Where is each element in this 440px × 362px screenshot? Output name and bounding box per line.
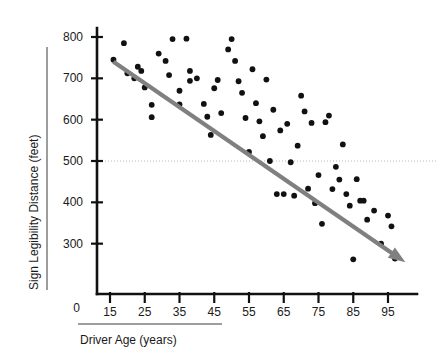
data-point bbox=[239, 90, 245, 96]
data-point bbox=[354, 176, 360, 182]
trend-arrow bbox=[113, 62, 405, 262]
y-tick-label-800: 800 bbox=[63, 30, 83, 44]
data-point bbox=[149, 114, 155, 120]
data-point bbox=[371, 208, 377, 214]
x-tick-group: 152535455565758595 bbox=[103, 292, 395, 319]
data-point bbox=[201, 101, 207, 107]
data-point bbox=[309, 120, 315, 126]
x-tick-label-25: 25 bbox=[138, 305, 152, 319]
data-point bbox=[274, 191, 280, 197]
data-point bbox=[302, 109, 308, 115]
y-tick-label-400: 400 bbox=[63, 195, 83, 209]
y-axis-title: Sign Legibility Distance (feet) bbox=[27, 135, 41, 290]
data-point bbox=[149, 102, 155, 108]
data-point bbox=[319, 221, 325, 227]
data-point bbox=[187, 78, 193, 84]
data-point bbox=[232, 58, 238, 64]
data-point bbox=[260, 133, 266, 139]
data-point bbox=[389, 223, 395, 229]
y-tick-label-500: 500 bbox=[63, 154, 83, 168]
data-point bbox=[138, 68, 144, 74]
y-tick-label-600: 600 bbox=[63, 113, 83, 127]
data-point bbox=[163, 58, 169, 64]
data-point bbox=[236, 78, 242, 84]
data-point bbox=[187, 68, 193, 74]
y-origin-label: 0 bbox=[73, 301, 80, 315]
data-point bbox=[267, 158, 273, 164]
x-tick-label-55: 55 bbox=[242, 305, 256, 319]
data-point bbox=[361, 198, 367, 204]
data-point bbox=[194, 75, 200, 81]
data-point bbox=[156, 51, 162, 57]
data-point bbox=[263, 77, 269, 83]
data-point bbox=[250, 66, 256, 72]
data-point bbox=[385, 213, 391, 219]
data-point bbox=[177, 88, 183, 94]
data-point bbox=[215, 77, 221, 83]
data-point bbox=[229, 36, 235, 42]
data-point bbox=[204, 114, 210, 120]
data-point bbox=[316, 172, 322, 178]
x-tick-label-75: 75 bbox=[312, 305, 326, 319]
data-point bbox=[218, 110, 224, 116]
trend-line bbox=[113, 62, 394, 255]
data-point bbox=[291, 193, 297, 199]
data-point bbox=[166, 72, 172, 78]
data-point bbox=[270, 107, 276, 113]
x-tick-label-85: 85 bbox=[347, 305, 361, 319]
y-tick-label-300: 300 bbox=[63, 237, 83, 251]
data-point bbox=[336, 177, 342, 183]
data-point bbox=[350, 256, 356, 262]
data-point bbox=[284, 121, 290, 127]
data-point bbox=[298, 93, 304, 99]
data-point bbox=[347, 203, 353, 209]
data-point bbox=[305, 186, 311, 192]
data-point bbox=[257, 118, 263, 124]
data-point bbox=[343, 191, 349, 197]
y-tick-label-700: 700 bbox=[63, 71, 83, 85]
data-point bbox=[277, 128, 283, 134]
data-point bbox=[211, 85, 217, 91]
x-tick-label-45: 45 bbox=[208, 305, 222, 319]
scatter-chart: 300400500600700800 152535455565758595 0 … bbox=[0, 0, 440, 362]
data-point bbox=[330, 186, 336, 192]
x-tick-label-35: 35 bbox=[173, 305, 187, 319]
data-point bbox=[225, 47, 231, 53]
data-point bbox=[295, 143, 301, 149]
data-point bbox=[184, 36, 190, 42]
x-axis-title: Driver Age (years) bbox=[80, 333, 177, 347]
data-point bbox=[323, 119, 329, 125]
data-point bbox=[208, 132, 214, 138]
data-point bbox=[121, 40, 127, 46]
axis-group bbox=[47, 28, 417, 324]
data-point bbox=[170, 36, 176, 42]
data-point bbox=[253, 100, 259, 106]
x-tick-label-65: 65 bbox=[277, 305, 291, 319]
data-point bbox=[340, 142, 346, 148]
data-point bbox=[364, 217, 370, 223]
data-point bbox=[281, 191, 287, 197]
data-point bbox=[333, 164, 339, 170]
data-point bbox=[326, 113, 332, 119]
x-tick-label-15: 15 bbox=[103, 305, 117, 319]
data-point bbox=[243, 115, 249, 121]
plot-canvas: 300400500600700800 152535455565758595 0 … bbox=[0, 0, 440, 362]
data-point bbox=[288, 159, 294, 165]
x-tick-label-95: 95 bbox=[381, 305, 395, 319]
